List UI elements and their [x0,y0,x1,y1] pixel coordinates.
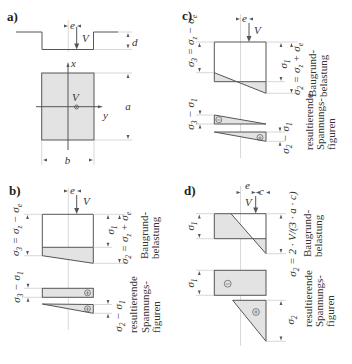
dim-arrow-up-icon [26,215,29,219]
force-arrow-head-icon [74,208,79,214]
result-bottom-sign: + [253,308,258,316]
dim-arrow-down-icon [280,337,283,341]
dim-arrow-up-icon [280,43,283,47]
force-label: V [83,195,91,207]
dim-arrow-down-icon [198,68,201,72]
dim-arrow-up-icon [198,43,201,47]
dim-arrow-up-icon [199,125,202,129]
formula-part: = σ [184,39,196,58]
result-bottom-sign: + [257,134,262,142]
panel-b-label: b) [9,183,21,198]
formula-subscript: 2 [290,315,299,319]
formula-subscript: e [124,211,133,215]
width-arrow-left-icon [43,159,47,162]
formula-part: − σ [9,207,21,226]
formula-part: = σ [9,228,21,247]
x-axis-arrow-icon [67,62,70,67]
formula-part: − σ [279,126,291,145]
formula-subscript: e [15,203,24,207]
width-label: b [65,154,71,166]
dim-arrow-down-icon [198,234,201,238]
sigma2-equation: σ2 = σz + σe [290,42,305,95]
y-axis-arrow-icon [98,105,103,108]
ecc-label: e [70,19,75,31]
dim-arrow-down-icon [27,284,30,288]
result-top-dim-label: σ3 − σ1 [10,271,25,302]
formula-subscript: 1 [190,221,199,225]
result-caption-line2: Spannungs- [139,281,151,333]
result-top-sign: + [85,289,90,297]
length-arrow-down-icon [127,135,130,139]
force-arrow-head-icon [253,208,258,214]
panel-b: b) e V σ3 = σz − σe σ1 σ2 = σz + σe Baug… [9,183,162,333]
ecc-label: e [245,179,250,191]
depth-arrow-up-icon [127,33,130,37]
sigma2-equation: σ2 = σz + σe [118,211,133,264]
depth-arrow-down-icon [127,45,130,49]
ecc-label: e [70,184,75,196]
dim-arrow-down-icon [107,243,110,247]
formula-part: = σ [118,236,130,255]
load-point-dot [76,106,77,107]
result-bottom-dim-label: σ2 − σ1 [279,122,294,153]
load-caption-line2: belastung [317,54,329,97]
load-caption-line2: belastung [312,214,324,257]
sigma3-equation: σ3 = σz − σe [184,14,199,67]
pressure-shade-left [214,214,253,239]
dim-arrow-down-icon [107,300,110,304]
formula-part: + σ [118,215,130,234]
force-label: V [254,24,262,36]
foundation-pressure-figure: a) e V d x y V a [0,0,352,364]
x-axis-label: x [70,57,76,69]
result-figure-bottom [233,300,266,341]
sigma3-equation: σ3 = σz − σe [9,203,24,256]
pressure-shade [42,247,93,263]
ecc-arrow-left-icon [77,190,81,193]
result-caption-line1: resultierende [127,276,139,333]
dim-arrow-down-icon [280,77,283,81]
sigma1-label: σ1 [104,225,119,234]
length-arrow-up-icon [127,74,130,78]
result-bottom-sign: + [85,305,90,313]
formula-part: = 2 · V/(3 · a · c) [286,191,299,267]
formula-part: + σ [290,46,302,65]
dim-arrow-down-icon [199,111,202,115]
force-label: V [82,32,90,44]
formula-part: − σ [10,275,22,294]
dim-arrow-down-icon [280,249,283,253]
formula-subscript: 1 [285,122,294,126]
result-caption-line3: figuren [324,295,336,327]
force-label: V [245,196,253,208]
panel-c: c) e V σ3 = σz − σe σ1 σ2 = σz + σe Baug… [182,8,337,158]
result-figure-top [214,270,266,295]
result-top-dim-label: σ3 − σ1 [184,98,199,129]
dim-arrow-up-icon [107,314,110,318]
excavation-profile [16,32,118,50]
formula-subscript: 1 [190,98,199,102]
formula-part: − σ [184,102,196,121]
formula-subscript: 1 [16,271,25,275]
ecc-arrow-right-icon [237,191,241,194]
result-bottom-dim-label: σ2 [284,315,299,324]
dim-arrow-down-icon [198,291,201,295]
formula-part: − σ [112,304,124,323]
result-top-sign: − [225,280,230,288]
dim-arrow-up-icon [27,298,30,302]
panel-d-label: d) [184,183,196,198]
force-arrow-head-icon [247,36,252,42]
dim-arrow-up-icon [280,215,283,219]
ecc-arrow-left-icon [77,25,81,28]
panel-a: a) e V d x y V a [7,9,138,166]
ecc-arrow-left-icon [249,18,253,21]
y-axis-label: y [102,109,108,121]
formula-subscript: 1 [190,278,199,282]
result-caption-line3: figuren [150,301,162,333]
ecc-arrow-right-icon [252,191,256,194]
panel-d: d) e c V σ1 σ2 = 2 · V/(3 · a · c) Baugr… [184,179,336,346]
depth-label: d [132,36,138,48]
load-caption-line2: belastung [149,216,161,259]
result-caption-line3: figuren [325,118,337,150]
dim-arrow-up-icon [198,215,201,219]
result-bottom-dim-label: σ2 − σ1 [112,300,127,331]
length-label: a [125,100,131,112]
